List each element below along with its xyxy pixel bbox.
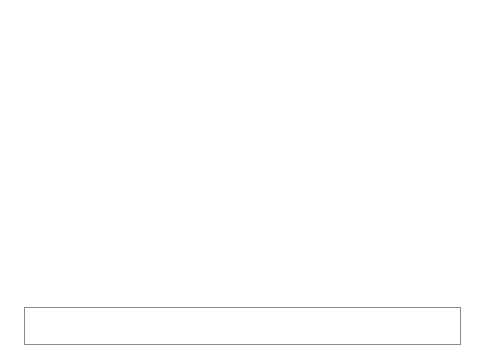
legend-row-2 [31,327,454,342]
chart-figure [0,0,483,360]
plot-area [62,20,412,253]
legend-row-1 [31,312,454,327]
chart-legend [24,307,461,345]
